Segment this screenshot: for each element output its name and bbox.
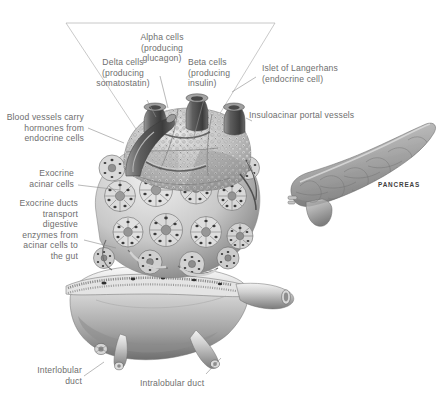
label-islet-of-langerhans: Islet of Langerhans (endocrine cell) (262, 63, 382, 84)
interlobular-duct-structure (66, 266, 294, 370)
caption-pancreas: PANCREAS (378, 180, 420, 191)
label-insuloacinar-portal-vessels: Insuloacinar portal vessels (249, 110, 409, 121)
label-exocrine-ducts: Exocrine ducts transport digestive enzym… (0, 198, 78, 262)
pancreas-organ-inset (288, 123, 436, 226)
label-beta-cells: Beta cells (producing insulin) (188, 57, 254, 89)
label-intralobular-duct: Intralobular duct (140, 378, 250, 389)
label-blood-vessels: Blood vessels carry hormones from endocr… (0, 112, 84, 144)
illustration-canvas: Alpha cells (producing glucagon) Delta c… (0, 0, 443, 411)
label-delta-cells: Delta cells (producing somatostatin) (78, 57, 168, 89)
label-interlobular-duct: Interlobular duct (12, 365, 82, 386)
label-exocrine-acinar-cells: Exocrine acinar cells (0, 168, 74, 189)
